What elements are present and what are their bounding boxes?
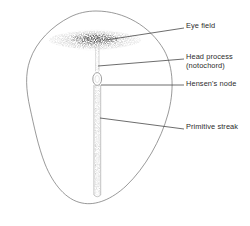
primitive-streak-band <box>94 84 101 197</box>
figure-canvas: Eye field Head process (notochord) Hense… <box>0 0 250 226</box>
head-process-band <box>95 46 99 72</box>
leader-primitive-streak <box>100 118 184 129</box>
label-primitive-streak: Primitive streak <box>186 122 238 131</box>
hensens-node-oval <box>93 73 102 86</box>
leader-head-process <box>98 59 184 66</box>
label-head-process: Head process <box>186 52 233 61</box>
label-hensens-node: Hensen's node <box>186 79 236 88</box>
label-eye-field: Eye field <box>186 21 215 30</box>
embryo-diagram <box>0 0 250 226</box>
label-head-process-sub: (notochord) <box>186 61 225 70</box>
